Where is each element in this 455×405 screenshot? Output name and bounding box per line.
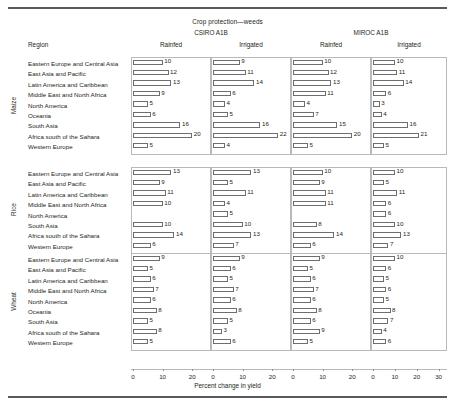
bar	[293, 143, 308, 148]
bar-group: 13	[293, 79, 367, 88]
bar-value-label: 5	[149, 316, 152, 323]
bar	[373, 143, 384, 148]
x-axis-tick	[395, 369, 396, 372]
bar-value-label: 10	[396, 57, 403, 64]
bar-value-label: 10	[396, 220, 403, 227]
bar	[293, 170, 323, 175]
bar-group: 5	[373, 179, 443, 188]
bar-group: 6	[293, 317, 367, 326]
bar-value-label: 5	[229, 209, 232, 216]
bar-group: 6	[373, 265, 443, 274]
row-label: Middle East and North Africa	[28, 90, 106, 99]
bar	[133, 339, 148, 344]
bar-value-label: 7	[315, 110, 318, 117]
bar-value-label: 7	[235, 240, 238, 247]
bar	[213, 287, 234, 292]
bar-group: 9	[293, 255, 367, 264]
bar-value-label: 9	[161, 253, 164, 260]
bar-group: 6	[373, 286, 443, 295]
row-label: Latin America and Caribbean	[28, 276, 108, 285]
x-axis-line	[291, 369, 371, 370]
bar-value-label: 13	[403, 230, 410, 237]
bar	[373, 122, 408, 127]
bar	[293, 276, 311, 281]
bar-value-label: 8	[318, 306, 321, 313]
bar-value-label: 5	[309, 337, 312, 344]
x-axis-tick	[293, 369, 294, 372]
bar	[373, 70, 397, 75]
x-axis-line	[371, 369, 447, 370]
x-axis-tick	[213, 369, 214, 372]
bar	[213, 232, 251, 237]
bar-value-label: 14	[405, 78, 412, 85]
bar-group: 7	[133, 286, 207, 295]
row-label: Latin America and Caribbean	[28, 80, 108, 89]
bar	[133, 143, 148, 148]
bar-group: 5	[213, 179, 287, 188]
bar-group: 9	[133, 90, 207, 99]
bar	[373, 201, 386, 206]
bar-value-label: 6	[152, 240, 155, 247]
bar-value-label: 8	[392, 306, 395, 313]
bar-group: 13	[373, 231, 443, 240]
bar	[133, 287, 154, 292]
bar-value-label: 5	[386, 295, 389, 302]
bar-group: 11	[213, 69, 287, 78]
bar	[293, 101, 305, 106]
bar-group: 4	[373, 328, 443, 337]
bar-value-label: 6	[388, 199, 391, 206]
bar-value-label: 21	[421, 130, 428, 137]
bar-value-label: 10	[164, 199, 171, 206]
bar	[213, 70, 246, 75]
bar-group: 14	[213, 79, 287, 88]
bar-value-label: 6	[312, 240, 315, 247]
bar-value-label: 13	[173, 167, 180, 174]
x-axis-tick	[417, 369, 418, 372]
bar-group: 9	[133, 255, 207, 264]
bar-group: 4	[213, 142, 287, 151]
bar-value-label: 6	[152, 274, 155, 281]
bar-value-label: 4	[226, 199, 229, 206]
bar	[373, 112, 382, 117]
bar-value-label: 5	[229, 274, 232, 281]
bar	[293, 91, 326, 96]
bar-value-label: 14	[176, 230, 183, 237]
bar-value-label: 7	[390, 316, 393, 323]
bar	[293, 80, 331, 85]
bar-group: 6	[133, 275, 207, 284]
bar-group: 10	[133, 200, 207, 209]
bar-value-label: 5	[149, 99, 152, 106]
bar-group: 5	[213, 210, 287, 219]
model-header-miroc: MIROC A1B	[291, 29, 451, 36]
bar-group: 3	[373, 100, 443, 109]
bar-value-label: 10	[396, 167, 403, 174]
bar	[293, 222, 317, 227]
bar-value-label: 9	[321, 253, 324, 260]
bar-value-label: 6	[388, 89, 391, 96]
row-label: North America	[28, 297, 67, 306]
bar	[373, 232, 401, 237]
row-label: Africa south of the Sahara	[28, 328, 100, 337]
column-header-0: Rainfed	[131, 41, 211, 48]
x-axis-tick	[163, 369, 164, 372]
bar-group: 6	[373, 200, 443, 209]
crop-label-wheat: Wheat	[10, 281, 17, 321]
bar-group: 6	[133, 111, 207, 120]
row-label: North America	[28, 211, 67, 220]
bar	[373, 318, 388, 323]
crop-label-maize: Maize	[10, 85, 17, 125]
bar-group: 10	[373, 59, 443, 68]
bar	[213, 201, 225, 206]
column-header-1: Irrigated	[211, 41, 291, 48]
bar	[373, 101, 380, 106]
bar	[133, 297, 151, 302]
bar-value-label: 9	[241, 253, 244, 260]
bar-value-label: 10	[324, 167, 331, 174]
bar-group: 16	[133, 121, 207, 130]
bottom-rule	[8, 396, 447, 398]
bar-group: 9	[213, 59, 287, 68]
bar-group: 6	[373, 210, 443, 219]
bar	[133, 112, 151, 117]
bar-value-label: 5	[149, 337, 152, 344]
bar	[213, 297, 231, 302]
